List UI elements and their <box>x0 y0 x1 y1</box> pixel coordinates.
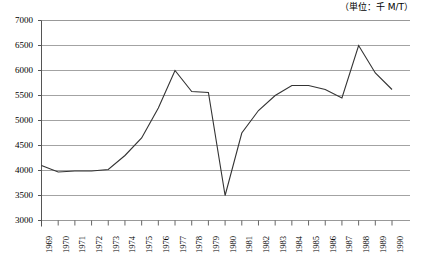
y-axis-tick-label: 5500 <box>3 91 33 100</box>
x-axis-tick-label: 1973 <box>112 236 121 253</box>
y-axis-tick-label: 6000 <box>3 66 33 75</box>
y-axis-tick-label: 7000 <box>3 16 33 25</box>
y-axis-tick-label: 4000 <box>3 166 33 175</box>
x-axis-tick-label: 1981 <box>245 236 254 253</box>
x-axis-tick-label: 1977 <box>179 236 188 253</box>
y-axis-tick-label: 5000 <box>3 116 33 125</box>
x-axis-tick-label: 1972 <box>95 236 104 253</box>
x-axis-tick-label: 1987 <box>345 236 354 253</box>
x-axis-tick-label: 1983 <box>279 236 288 253</box>
x-axis-tick-label: 1988 <box>362 236 371 253</box>
x-axis-tick-label: 1969 <box>45 236 54 253</box>
y-axis-ticks <box>38 21 42 221</box>
x-axis-tick-label: 1984 <box>295 236 304 253</box>
y-axis-tick-label: 4500 <box>3 141 33 150</box>
x-axis-tick-label: 1980 <box>229 236 238 253</box>
x-axis-tick-label: 1976 <box>162 236 171 253</box>
x-axis-tick-label: 1975 <box>145 236 154 253</box>
x-axis-tick-label: 1990 <box>396 236 405 253</box>
x-axis-tick-label: 1974 <box>128 236 137 253</box>
x-axis-tick-label: 1979 <box>212 236 221 253</box>
y-axis-tick-label: 6500 <box>3 41 33 50</box>
gridlines <box>42 21 411 221</box>
x-axis-tick-label: 1989 <box>379 236 388 253</box>
y-axis-tick-label: 3500 <box>3 191 33 200</box>
y-axis-tick-label: 3000 <box>3 216 33 225</box>
x-axis-tick-label: 1971 <box>78 236 87 253</box>
x-axis-ticks <box>42 221 393 226</box>
x-axis-tick-label: 1982 <box>262 236 271 253</box>
x-axis-tick-label: 1970 <box>62 236 71 253</box>
x-axis-tick-label: 1985 <box>312 236 321 253</box>
x-axis-tick-label: 1978 <box>195 236 204 253</box>
x-axis-tick-label: 1986 <box>329 236 338 253</box>
line-chart: （単位：千 M/T） 70006500600055005000450040003… <box>0 0 421 277</box>
